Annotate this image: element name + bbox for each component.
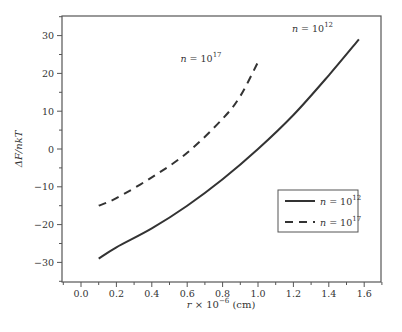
x-tick-label: 0.6 [180, 288, 195, 299]
series-line-n17 [99, 62, 258, 206]
y-tick-label: 30 [42, 30, 54, 41]
y-axis-label: ΔF/nkT [13, 129, 24, 168]
annotations: n = 1012n = 1017 [180, 21, 333, 64]
y-tick-label: −30 [34, 257, 54, 268]
x-axis-label: r × 10−6 (cm) [187, 297, 256, 310]
x-tick-label: 1.0 [250, 288, 265, 299]
x-tick-label: 0.4 [144, 288, 159, 299]
x-tick-label: 1.2 [286, 288, 301, 299]
y-tick-label: −10 [34, 181, 54, 192]
y-axis: 3020100−10−20−30 [34, 17, 62, 282]
y-tick-label: 10 [42, 106, 54, 117]
chart: 3020100−10−20−30 0.00.20.40.60.81.01.21.… [0, 0, 402, 332]
y-tick-label: −20 [34, 219, 54, 230]
legend: n = 1012 n = 1017 [278, 190, 361, 232]
y-tick-label: 20 [42, 68, 54, 79]
annotation-n17: n = 1017 [180, 51, 221, 64]
y-tick-label: 0 [48, 144, 54, 155]
annotation-n12: n = 1012 [292, 21, 333, 34]
x-tick-label: 0.2 [109, 288, 124, 299]
x-tick-label: 1.4 [321, 288, 336, 299]
x-tick-label: 1.6 [357, 288, 372, 299]
x-tick-label: 0.0 [73, 288, 88, 299]
